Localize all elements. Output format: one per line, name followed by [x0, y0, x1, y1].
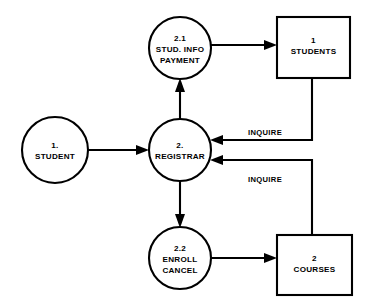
- process-registrar[interactable]: 2. REGISTRAR: [149, 119, 211, 181]
- flow-registrar-to-enroll: [175, 181, 185, 228]
- datastore-courses-number: 2: [312, 254, 317, 263]
- flow-label-courses-inquire: INQUIRE: [248, 175, 282, 184]
- process-stud-info-payment[interactable]: 2.1 STUD. INFO PAYMENT: [149, 17, 211, 79]
- process-stud-info-payment-name-line2: PAYMENT: [160, 56, 200, 65]
- process-registrar-name: REGISTRAR: [155, 152, 205, 161]
- datastore-courses[interactable]: 2 COURSES: [277, 235, 352, 295]
- process-student-circle[interactable]: [22, 117, 88, 183]
- process-registrar-circle[interactable]: [149, 119, 211, 181]
- process-enroll-cancel-name-line1: ENROLL: [163, 255, 198, 264]
- process-enroll-cancel[interactable]: 2.2 ENROLL CANCEL: [149, 227, 211, 289]
- process-student[interactable]: 1. STUDENT: [22, 117, 88, 183]
- flow-line-courses-to-registrar: [219, 160, 312, 235]
- process-stud-info-payment-name-line1: STUD. INFO: [156, 45, 204, 54]
- arrowhead-students-to-registrar: [210, 135, 223, 145]
- arrowhead-student-to-registrar: [136, 145, 149, 155]
- process-student-name: STUDENT: [35, 152, 75, 161]
- process-student-number: 1.: [51, 141, 58, 150]
- flow-courses-to-registrar: [210, 155, 312, 235]
- arrowhead-registrar-to-stud-info: [175, 78, 185, 92]
- dfd-svg-root: 1 STUDENTS 2 COURSES 1. STUDENT 2.1 STUD…: [0, 0, 367, 302]
- datastore-students-name: STUDENTS: [291, 47, 337, 56]
- datastore-courses-name: COURSES: [294, 265, 336, 274]
- flow-registrar-to-stud-info: [175, 78, 185, 119]
- dfd-diagram-canvas: 1 STUDENTS 2 COURSES 1. STUDENT 2.1 STUD…: [0, 0, 367, 302]
- datastore-students-number: 1: [311, 36, 316, 45]
- datastore-students[interactable]: 1 STUDENTS: [277, 17, 350, 78]
- flow-enroll-to-courses: [211, 253, 277, 263]
- arrowhead-registrar-to-enroll: [175, 214, 185, 228]
- flow-stud-info-to-students: [211, 40, 277, 50]
- process-enroll-cancel-name-line2: CANCEL: [162, 266, 197, 275]
- flow-label-students-inquire: INQUIRE: [248, 128, 282, 137]
- process-enroll-cancel-number: 2.2: [174, 244, 186, 253]
- process-stud-info-payment-number: 2.1: [174, 34, 186, 43]
- flow-student-to-registrar: [88, 145, 149, 155]
- arrowhead-enroll-to-courses: [264, 253, 277, 263]
- arrowhead-stud-info-to-students: [264, 40, 277, 50]
- process-registrar-number: 2.: [176, 141, 183, 150]
- arrowhead-courses-to-registrar: [210, 155, 223, 165]
